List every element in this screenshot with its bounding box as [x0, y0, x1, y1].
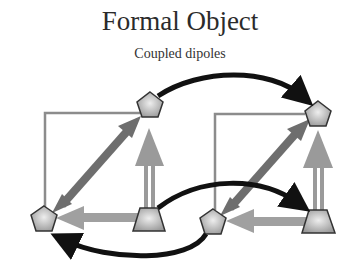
left-bottom-pentagon [31, 206, 57, 231]
left-vertical-arrow [135, 128, 164, 210]
coupling-bottom-pentagons [64, 234, 206, 256]
coupled-dipoles-diagram [0, 0, 360, 278]
right-horizontal-arrow [226, 209, 306, 233]
left-diagonal-arrow [52, 116, 141, 213]
right-trapezoid [302, 210, 335, 233]
left-trapezoid [133, 208, 165, 231]
right-dipole-pair [200, 101, 335, 234]
right-vertical-arrow [303, 130, 333, 213]
right-top-pentagon [305, 101, 331, 126]
left-dipole-pair [31, 92, 165, 231]
left-horizontal-arrow [56, 206, 138, 230]
coupling-top-pentagons [158, 75, 302, 96]
